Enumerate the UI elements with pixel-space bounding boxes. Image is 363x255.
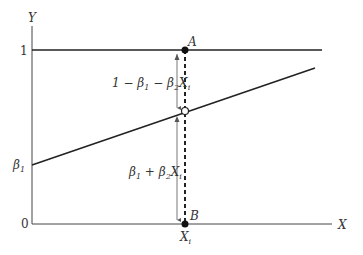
y-tick-1: 1 (20, 44, 28, 58)
y-tick-beta1: β1 (12, 158, 25, 174)
lower-arrowhead-up (175, 116, 180, 122)
y-tick-beta-sub: 1 (20, 165, 25, 174)
upper-part2: − β (149, 76, 174, 90)
label-b: B (189, 209, 199, 223)
label-a: A (187, 35, 197, 49)
lower-sub3: i (179, 172, 182, 181)
upper-annotation: 1 − β1 − β2Xi (112, 76, 191, 92)
y-tick-beta: β (12, 158, 20, 172)
label-xi: Xi (179, 230, 192, 246)
y-tick-0: 0 (21, 217, 29, 231)
point-predicted (182, 108, 189, 115)
xi-sub: i (189, 237, 192, 246)
x-axis-label: X (337, 218, 347, 232)
xi-x: X (179, 230, 189, 244)
lower-part1: β (128, 165, 136, 179)
lower-part3: X (170, 165, 180, 179)
lower-part2: + β (141, 165, 166, 179)
lower-annotation: β1 + β2Xi (128, 165, 182, 181)
upper-part1: 1 − β (112, 76, 144, 90)
upper-arrowhead-up (175, 54, 180, 60)
lpm-diagram: Y X 1 β1 0 A B Xi 1 − β1 − β2Xi β1 + β2X… (0, 0, 363, 255)
upper-part3: X (178, 76, 188, 90)
y-axis-label: Y (28, 11, 37, 25)
upper-sub3: i (188, 83, 191, 92)
point-b (182, 221, 189, 228)
